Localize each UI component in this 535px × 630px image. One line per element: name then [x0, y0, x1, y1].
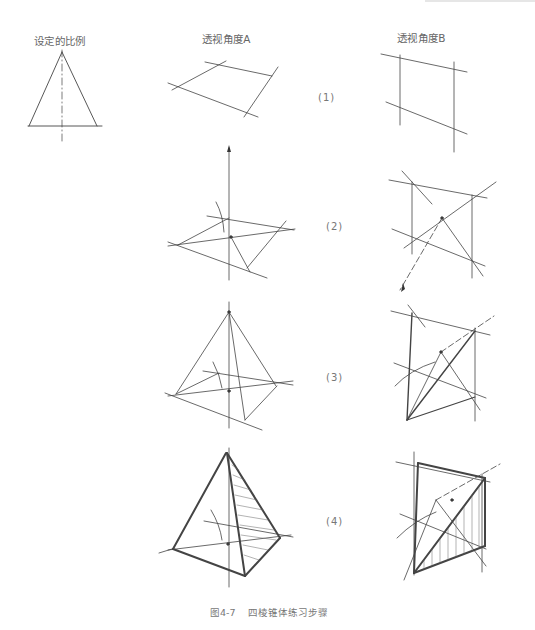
step4-perspective-a: [159, 448, 293, 587]
step2-perspective-a: [168, 145, 295, 280]
step3-perspective-b: [391, 305, 494, 421]
construction-drawings: [0, 0, 535, 630]
proportion-triangle: [28, 50, 102, 142]
step1-perspective-a: [168, 61, 278, 117]
hatching-a: [232, 465, 276, 560]
step2-perspective-b: [389, 171, 496, 292]
step1-perspective-b: [381, 54, 467, 152]
step4-perspective-b: [396, 452, 500, 580]
step3-perspective-a: [165, 302, 293, 430]
